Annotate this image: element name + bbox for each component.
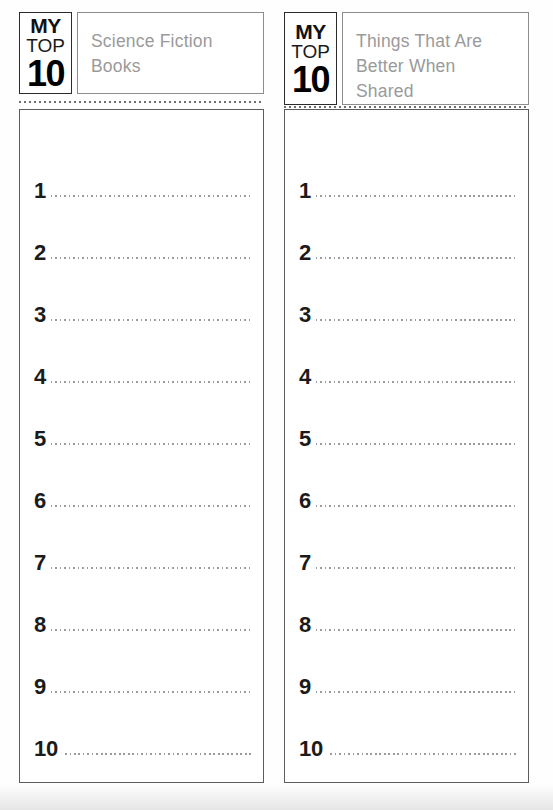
list-item-write-line[interactable] (316, 691, 516, 693)
list-box-right: 1 2 3 4 5 6 7 (284, 109, 529, 783)
list-item[interactable]: 4 (34, 324, 251, 386)
list-item[interactable]: 5 (299, 386, 516, 448)
list-item-number: 4 (299, 366, 316, 388)
list-item-number: 5 (299, 428, 316, 450)
list-item-write-line[interactable] (51, 257, 251, 259)
list-item-number: 1 (299, 180, 316, 202)
list-item[interactable]: 3 (34, 262, 251, 324)
list-item-number: 7 (34, 552, 51, 574)
list-column-right: MY TOP 10 Things That Are Better When Sh… (284, 12, 529, 810)
list-item-write-line[interactable] (51, 443, 251, 445)
list-item-number: 2 (34, 242, 51, 264)
list-item-write-line[interactable] (51, 567, 251, 569)
logo-line-my: MY (30, 16, 61, 36)
list-item[interactable]: 3 (299, 262, 516, 324)
list-item[interactable]: 8 (34, 572, 251, 634)
list-item-number: 9 (34, 676, 51, 698)
my-top-10-logo-left: MY TOP 10 (19, 12, 72, 94)
list-item[interactable]: 8 (299, 572, 516, 634)
list-item[interactable]: 6 (34, 448, 251, 510)
list-item[interactable]: 7 (299, 510, 516, 572)
list-item-number: 3 (34, 304, 51, 326)
list-item[interactable]: 1 (299, 138, 516, 200)
list-item[interactable]: 5 (34, 386, 251, 448)
column-header-right: MY TOP 10 Things That Are Better When Sh… (284, 12, 529, 105)
list-item-number: 7 (299, 552, 316, 574)
list-item-number: 2 (299, 242, 316, 264)
list-item-write-line[interactable] (316, 629, 516, 631)
list-item[interactable]: 10 (299, 696, 516, 758)
list-item-write-line[interactable] (316, 195, 516, 197)
list-item-number: 4 (34, 366, 51, 388)
list-item-number: 10 (34, 738, 65, 760)
list-item-write-line[interactable] (65, 753, 251, 755)
column-header-left: MY TOP 10 Science Fiction Books (19, 12, 264, 94)
logo-line-my: MY (295, 22, 326, 42)
list-item-number: 1 (34, 180, 51, 202)
list-item[interactable]: 9 (299, 634, 516, 696)
list-item-number: 8 (299, 614, 316, 636)
list-box-left: 1 2 3 4 5 6 7 (19, 109, 264, 783)
list-item-number: 9 (299, 676, 316, 698)
list-item-number: 3 (299, 304, 316, 326)
list-item-write-line[interactable] (51, 505, 251, 507)
list-item-write-line[interactable] (316, 257, 516, 259)
worksheet-page: MY TOP 10 Science Fiction Books 1 2 3 (0, 0, 553, 810)
list-item-number: 5 (34, 428, 51, 450)
list-item-write-line[interactable] (316, 505, 516, 507)
dotted-divider-line (19, 101, 264, 103)
list-item[interactable]: 9 (34, 634, 251, 696)
list-column-left: MY TOP 10 Science Fiction Books 1 2 3 (19, 12, 264, 810)
list-item-number: 6 (299, 490, 316, 512)
list-item-write-line[interactable] (316, 567, 516, 569)
list-item-number: 10 (299, 738, 330, 760)
list-item-write-line[interactable] (316, 443, 516, 445)
list-item[interactable]: 10 (34, 696, 251, 758)
list-item[interactable]: 6 (299, 448, 516, 510)
list-item[interactable]: 2 (299, 200, 516, 262)
list-item-write-line[interactable] (51, 629, 251, 631)
list-item-write-line[interactable] (51, 691, 251, 693)
list-item[interactable]: 4 (299, 324, 516, 386)
list-item-write-line[interactable] (51, 195, 251, 197)
list-title-right: Things That Are Better When Shared (356, 29, 518, 104)
list-item-write-line[interactable] (330, 753, 516, 755)
dotted-divider-line (284, 106, 529, 108)
list-item[interactable]: 7 (34, 510, 251, 572)
list-title-left: Science Fiction Books (91, 29, 253, 79)
list-item-write-line[interactable] (316, 319, 516, 321)
list-item-number: 8 (34, 614, 51, 636)
list-item-write-line[interactable] (316, 381, 516, 383)
my-top-10-logo-right: MY TOP 10 (284, 12, 337, 105)
list-item-number: 6 (34, 490, 51, 512)
list-item-write-line[interactable] (51, 381, 251, 383)
dotted-divider-left (19, 94, 264, 109)
list-title-box-left[interactable]: Science Fiction Books (77, 12, 264, 94)
list-item[interactable]: 2 (34, 200, 251, 262)
list-item-write-line[interactable] (51, 319, 251, 321)
list-title-box-right[interactable]: Things That Are Better When Shared (342, 12, 529, 105)
list-item[interactable]: 1 (34, 138, 251, 200)
logo-line-10: 10 (292, 63, 329, 97)
logo-line-10: 10 (27, 57, 64, 91)
